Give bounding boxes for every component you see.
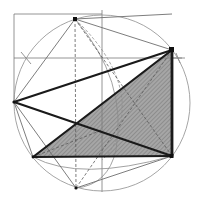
vertex-A (169, 47, 174, 52)
vertex-L (12, 100, 15, 103)
vertex-T (73, 17, 77, 21)
geometry-diagram (0, 0, 203, 205)
vertex-B (74, 186, 77, 189)
chord-B-C (76, 156, 172, 188)
vertex-C (170, 154, 174, 158)
chord-L-D (14, 102, 33, 157)
dashed-T-B (75, 19, 76, 188)
vertex-D (32, 156, 35, 159)
chord-T-L (14, 19, 75, 102)
chord-top-right (75, 14, 172, 19)
edge-D-C (33, 156, 172, 157)
